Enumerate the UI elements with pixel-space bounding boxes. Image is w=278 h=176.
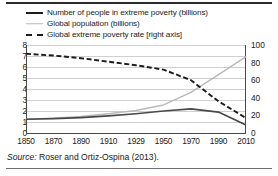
poverty-chart-figure: Number of people in extreme poverty (bil…	[0, 0, 278, 176]
x-axis-tick: 1910	[100, 136, 117, 146]
x-axis-tick: 1890	[72, 136, 89, 146]
y-axis-right-tick: 60	[251, 76, 260, 84]
figure-bottom-rule	[6, 168, 272, 169]
legend-item-label: Global extreme poverty rate [right axis]	[47, 30, 182, 40]
x-axis-tick: 1870	[45, 136, 62, 146]
line-dashed-dark-icon	[26, 30, 43, 39]
x-axis-tick: 1970	[182, 136, 199, 146]
legend-item-label: Global population (billions)	[47, 19, 140, 29]
figure-top-rule	[6, 2, 272, 4]
line-solid-dark-icon	[26, 8, 43, 17]
legend-item-label: Number of people in extreme poverty (bil…	[47, 8, 208, 18]
figure-source-caption: Source: Roser and Ortiz-Ospina (2013).	[7, 152, 159, 163]
legend-item-poverty-rate: Global extreme poverty rate [right axis]	[26, 29, 266, 40]
x-axis-tick: 1850	[17, 136, 34, 146]
x-axis-tick: 2010	[237, 136, 254, 146]
series-path-poverty-count	[26, 109, 246, 125]
legend-item-global-population: Global population (billions)	[26, 18, 266, 29]
line-solid-gray-icon	[26, 19, 43, 28]
source-label: Source:	[7, 152, 37, 162]
series-lines	[26, 45, 246, 133]
chart-legend: Number of people in extreme poverty (bil…	[26, 7, 266, 40]
x-axis-tick-labels: 185018701890191019291950197019902010	[0, 136, 278, 148]
chart-plot-area: 012345678 020406080100	[0, 43, 278, 139]
y-axis-right-tick: 40	[251, 94, 260, 102]
series-path-poverty-rate	[26, 54, 246, 118]
x-axis-tick: 1929	[127, 136, 144, 146]
x-axis-tick: 1950	[155, 136, 172, 146]
y-axis-right-tick: 80	[251, 59, 260, 67]
legend-item-poverty-count: Number of people in extreme poverty (bil…	[26, 7, 266, 18]
source-text: Roser and Ortiz-Ospina (2013).	[37, 152, 159, 162]
y-axis-right-tick: 20	[251, 111, 260, 119]
x-axis-tick: 1990	[210, 136, 227, 146]
y-axis-right-tick: 100	[251, 41, 265, 49]
y-axis-right: 020406080100	[250, 43, 274, 133]
